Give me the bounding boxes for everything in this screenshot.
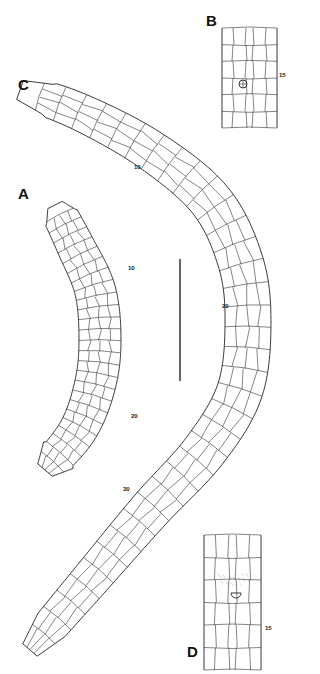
worm-a-cell-wall — [89, 319, 90, 330]
worm-c-cell-wall — [79, 112, 98, 121]
worm-c-cell-wall — [63, 95, 83, 103]
worm-a-cell-wall — [74, 442, 81, 451]
panel-b-segment-line — [222, 45, 277, 46]
worm-c-cell-wall — [165, 171, 179, 186]
worm-c-segment-ring — [138, 492, 169, 521]
worm-a-cell-wall — [97, 363, 100, 374]
segment-label-a-20: 20 — [131, 413, 138, 419]
worm-a-cell-wall — [98, 307, 99, 318]
worm-c-cell-wall — [256, 284, 260, 306]
panel-b-cell-wall — [252, 111, 253, 128]
worm-a-cell-wall — [61, 430, 66, 439]
segment-label-a-10: 10 — [128, 265, 135, 271]
worm-a-cell-wall — [86, 406, 87, 418]
worm-a-cell-wall — [91, 385, 97, 395]
worm-a-cell-wall — [95, 297, 100, 307]
worm-a-cell-wall — [108, 352, 111, 364]
segment-label-d-15: 15 — [265, 625, 272, 631]
stipple-dot — [239, 579, 240, 580]
worm-a-cell-wall — [85, 288, 86, 299]
panel-d-cell-wall — [228, 625, 229, 648]
panel-b-cell-wall — [232, 45, 233, 62]
worm-c-cell-wall — [56, 113, 75, 120]
worm-c-segment-ring — [84, 558, 114, 583]
worm-a-segment-ring — [78, 360, 120, 365]
worm-a-cell-wall — [91, 274, 92, 286]
panel-b-cell-wall — [265, 61, 266, 78]
worm-a-cell-wall — [73, 221, 78, 231]
stipple-dot — [231, 583, 232, 584]
panel-d-cell-wall — [250, 648, 251, 671]
worm-a-segment-ring — [63, 246, 97, 264]
stipple-dot — [240, 580, 241, 581]
panel-d-cell-wall — [235, 558, 236, 581]
worm-c-cell-wall — [226, 200, 235, 221]
worm-c-cell-wall — [94, 129, 112, 139]
stipple-dot — [219, 575, 220, 576]
worm-c-cell-wall — [175, 157, 194, 168]
worm-c-cell-wall — [34, 638, 49, 653]
worm-c-cell-wall — [85, 570, 97, 587]
panel-d-cell-wall — [215, 535, 216, 558]
worm-a-cell-wall — [98, 329, 101, 340]
stipple-dot — [224, 576, 225, 577]
worm-c-segment-ring — [203, 414, 241, 439]
worm-c-cell-wall — [103, 111, 121, 122]
panel-d-cell-wall — [249, 580, 250, 603]
worm-c-cell-wall — [65, 579, 77, 596]
worm-c-cell-wall — [170, 164, 187, 177]
panel-d-cell-wall — [214, 558, 215, 581]
worm-c-cell-wall — [216, 231, 225, 249]
worm-c-segment-ring — [191, 431, 227, 458]
worm-a-cell-wall — [93, 410, 99, 420]
worm-a-cell-wall — [56, 229, 62, 238]
worm-a-cell-wall — [109, 341, 112, 353]
worm-c-cell-wall — [49, 597, 65, 611]
panel-b-segment-line — [222, 27, 277, 28]
panel-b-cell-wall — [245, 61, 246, 78]
stipple-dot — [221, 577, 222, 578]
panel-d-cell-wall — [229, 603, 230, 626]
panel-d-cell-wall — [235, 603, 236, 626]
worm-c-segment-ring — [187, 176, 218, 206]
worm-a-cell-wall — [83, 382, 84, 393]
worm-c-cell-wall — [65, 607, 77, 625]
stipple-dot — [238, 574, 239, 575]
worm-a-cell-wall — [102, 283, 108, 294]
worm-a-cell-wall — [100, 398, 101, 410]
worm-c-cell-wall — [112, 140, 131, 148]
panel-b-cell-wall — [245, 28, 246, 45]
stipple-dot — [248, 580, 249, 581]
worm-c-cell-wall — [113, 537, 124, 555]
panel-d-cell-wall — [215, 580, 216, 603]
worm-c-cell-wall — [206, 450, 217, 469]
worm-a-cell-wall — [89, 330, 91, 341]
panel-b-segment-line — [222, 78, 277, 79]
worm-c-cell-wall — [193, 200, 208, 213]
panel-b-cell-wall — [265, 95, 266, 112]
worm-a-cell-wall — [45, 462, 53, 470]
worm-a-cell-wall — [60, 215, 66, 224]
panel-d-cell-wall — [235, 648, 236, 671]
worm-a-cell-wall — [87, 361, 89, 372]
worm-c-segment-ring — [218, 383, 262, 397]
worm-c-cell-wall — [82, 105, 103, 111]
stipple-dot — [225, 577, 226, 578]
stipple-dot — [244, 580, 245, 581]
stipple-dot — [233, 577, 234, 578]
worm-c-cell-wall — [190, 468, 206, 483]
panel-b-cell-wall — [232, 111, 233, 128]
worm-c-cell-wall — [160, 500, 177, 513]
worm-c-cell-wall — [247, 306, 249, 327]
worm-c-cell-wall — [211, 404, 222, 420]
worm-c-cell-wall — [121, 122, 141, 131]
worm-c-cell-wall — [91, 578, 107, 592]
stipple-dot — [222, 582, 223, 583]
worm-a-cell-wall — [89, 396, 92, 407]
worm-a-segment-ring — [41, 451, 64, 472]
stipple-dot — [226, 582, 227, 583]
worm-c-segment-ring — [32, 624, 54, 643]
worm-c-cell-wall — [187, 438, 202, 452]
stipple-dot — [243, 575, 244, 576]
worm-c-cell-wall — [224, 385, 228, 404]
